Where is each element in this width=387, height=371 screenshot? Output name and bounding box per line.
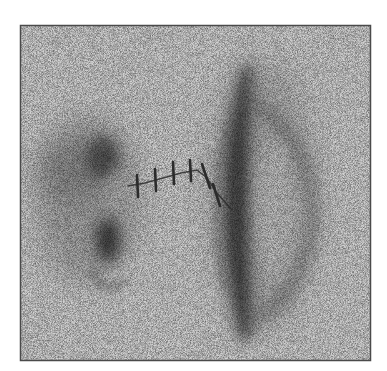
scientific-illustration: [0, 0, 387, 371]
stitch-mark: [137, 175, 138, 197]
stipple-texture: [20, 25, 371, 361]
image-panel: [20, 25, 371, 361]
stitch-mark: [173, 162, 174, 184]
stitch-mark: [155, 169, 156, 191]
stitch-mark: [190, 160, 191, 181]
